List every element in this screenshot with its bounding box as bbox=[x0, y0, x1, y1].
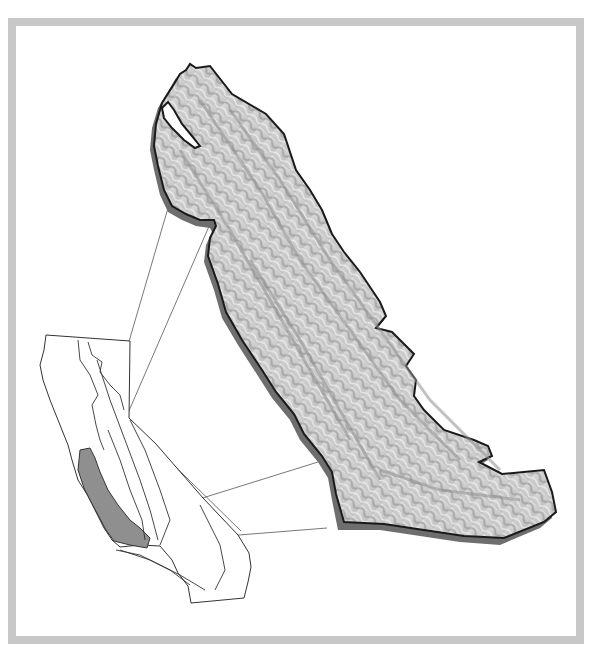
california-inset bbox=[40, 335, 251, 603]
map-canvas bbox=[0, 0, 592, 651]
california-outline bbox=[40, 335, 251, 603]
